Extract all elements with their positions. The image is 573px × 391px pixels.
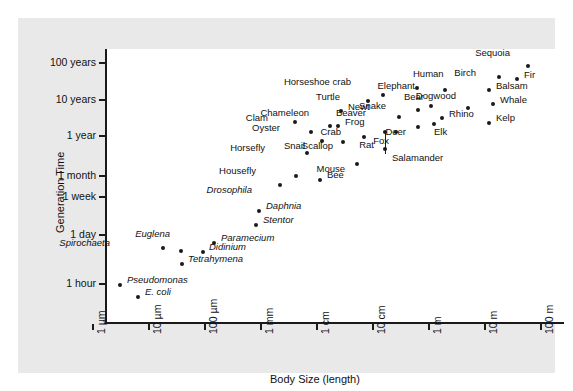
- x-tick-label: 1 µm: [96, 310, 106, 334]
- data-point: [466, 106, 470, 110]
- data-point-label: Sequoia: [475, 48, 510, 58]
- data-point: [416, 125, 420, 129]
- data-point: [362, 135, 366, 139]
- y-tick-label: 1 day: [70, 229, 96, 239]
- data-point: [201, 250, 205, 254]
- data-point-label: E. coli: [145, 287, 171, 297]
- data-point: [336, 124, 340, 128]
- data-point: [515, 77, 519, 81]
- y-tick-label: 100 years: [50, 57, 96, 67]
- x-tick-label: 1 cm: [320, 311, 330, 334]
- x-tick-label: 10 m: [488, 311, 498, 334]
- x-tick-mark: [484, 324, 486, 330]
- y-tick-label: 1 month: [58, 170, 96, 180]
- data-point: [318, 178, 322, 182]
- data-point-label: Snail: [284, 141, 305, 151]
- y-tick-mark: [99, 99, 105, 101]
- data-point-label: Human: [413, 69, 444, 79]
- data-point-label: Scallop: [302, 141, 333, 151]
- data-point-label: Euglena: [135, 229, 170, 239]
- chart-panel: Generation Time Body Size (length) 100 y…: [18, 18, 555, 373]
- data-point-label: Newt: [348, 102, 370, 112]
- data-point: [394, 130, 398, 134]
- data-point: [293, 120, 297, 124]
- data-point: [305, 151, 309, 155]
- data-point-label: Fox: [373, 136, 389, 146]
- y-tick-mark: [99, 196, 105, 198]
- data-point-label: Tetrahymena: [188, 254, 243, 264]
- data-point-label: Mouse: [316, 164, 345, 174]
- data-point: [294, 174, 298, 178]
- data-point-label: Balsam: [496, 81, 528, 91]
- x-tick-mark: [372, 324, 374, 330]
- data-point-label: Fir: [524, 70, 535, 80]
- data-point: [487, 121, 491, 125]
- data-point: [136, 295, 140, 299]
- x-tick-mark: [540, 324, 542, 330]
- data-point: [366, 99, 370, 103]
- data-point: [415, 86, 419, 90]
- data-point-label: Turtle: [316, 92, 340, 102]
- y-tick-mark: [99, 135, 105, 137]
- x-tick-label: 10 µm: [152, 305, 162, 334]
- y-axis-title: Generation Time: [54, 152, 66, 233]
- data-point-label: Drosophila: [207, 185, 252, 195]
- data-point-label: Housefly: [219, 166, 256, 176]
- data-point: [443, 88, 447, 92]
- data-point-label: Spirochaeta: [59, 238, 110, 248]
- data-point-label: Chameleon: [260, 108, 309, 118]
- data-point: [526, 64, 530, 68]
- data-point-label: Deer: [385, 127, 406, 137]
- data-point-label: Didinium: [209, 242, 246, 252]
- data-point: [328, 124, 332, 128]
- x-axis-line: [105, 322, 564, 324]
- data-point-label: Horsefly: [230, 143, 265, 153]
- y-axis-line: [105, 49, 107, 324]
- data-point-label: Snake: [359, 101, 386, 111]
- plot-area: [106, 49, 564, 323]
- x-tick-label: 10 cm: [376, 305, 386, 334]
- data-point-label: Bee: [327, 170, 344, 180]
- data-point: [429, 104, 433, 108]
- data-point-label: Bear: [404, 92, 424, 102]
- y-tick-label: 1 hour: [66, 278, 96, 288]
- data-point: [383, 147, 387, 151]
- y-tick-label: 1 year: [67, 130, 96, 140]
- y-tick-mark: [99, 234, 105, 236]
- data-point-label: Oyster: [252, 123, 280, 133]
- y-tick-label: 1 week: [63, 191, 96, 201]
- data-point-label: Kelp: [496, 113, 515, 123]
- x-tick-label: 100 µm: [208, 299, 218, 334]
- data-point: [212, 241, 216, 245]
- data-point: [416, 108, 420, 112]
- data-point-label: Dogwood: [416, 91, 456, 101]
- x-tick-mark: [92, 324, 94, 330]
- data-point: [487, 88, 491, 92]
- data-point-label: Elk: [434, 127, 447, 137]
- x-tick-label: 1 m: [432, 316, 442, 334]
- data-point: [381, 93, 385, 97]
- data-point: [339, 109, 343, 113]
- data-point-label: Stentor: [263, 215, 294, 225]
- data-point-label: Beaver: [336, 108, 366, 118]
- salamander-leader-line: [385, 132, 386, 154]
- data-point: [320, 139, 324, 143]
- data-point-label: Salamander: [392, 153, 443, 163]
- figure-scatter-generation-time-vs-body-size: Generation Time Body Size (length) 100 y…: [0, 0, 573, 391]
- data-point-label: Horseshoe crab: [284, 77, 351, 87]
- data-point: [440, 116, 444, 120]
- y-tick-mark: [99, 283, 105, 285]
- x-tick-mark: [316, 324, 318, 330]
- data-point: [341, 140, 345, 144]
- data-point: [161, 246, 165, 250]
- x-tick-label: 100 m: [544, 305, 554, 334]
- data-point: [309, 130, 313, 134]
- data-point-label: Elephant: [377, 81, 415, 91]
- data-point-label: Frog: [345, 117, 365, 127]
- data-point: [179, 249, 183, 253]
- y-tick-mark: [99, 175, 105, 177]
- data-point: [432, 122, 436, 126]
- x-tick-mark: [148, 324, 150, 330]
- data-point-label: Pseudomonas: [127, 275, 188, 285]
- data-point-label: Birch: [454, 68, 476, 78]
